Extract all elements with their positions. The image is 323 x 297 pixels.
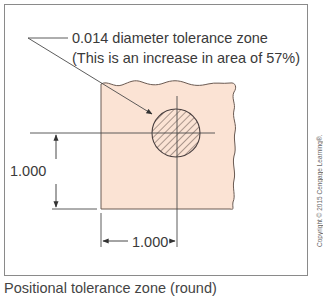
copyright-notice: Copyright © 2015 Cengage Learning®. [316, 134, 323, 247]
vertical-dimension-value: 1.000 [10, 163, 46, 179]
figure-caption: Positional tolerance zone (round) [4, 280, 217, 296]
diagram-figure: 0.014 diameter tolerance zone (This is a… [0, 0, 323, 297]
callout-text-line2: (This is an increase in area of 57%) [72, 50, 300, 66]
horizontal-dimension-value: 1.000 [131, 234, 169, 250]
callout-text-line1: 0.014 diameter tolerance zone [72, 30, 268, 46]
